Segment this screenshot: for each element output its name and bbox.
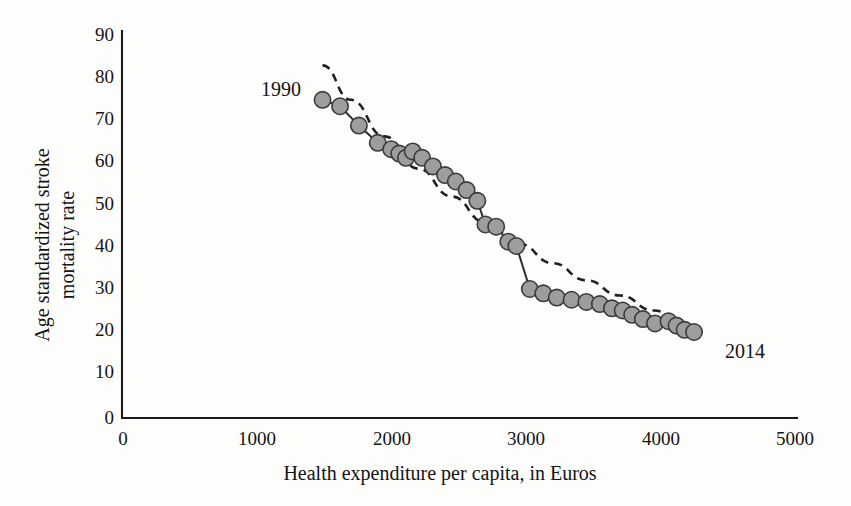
stroke-mortality-scatter-figure: 90 80 70 60 50 40 30 20 10 0 0 1000 2000…	[0, 0, 851, 506]
data-point	[314, 92, 330, 108]
y-tick-label-50: 50	[95, 193, 114, 214]
data-point	[351, 117, 367, 133]
axis-lines	[122, 31, 797, 418]
y-axis-title: Age standardized stroke mortality rate	[31, 148, 79, 341]
annotation-2014: 2014	[725, 340, 765, 362]
y-tick-label-60: 60	[95, 150, 114, 171]
data-point	[488, 218, 504, 234]
y-tick-label-20: 20	[95, 319, 114, 340]
trend-line-dashed	[323, 65, 685, 323]
y-axis-title-line1: Age standardized stroke	[31, 148, 54, 341]
x-axis-title: Health expenditure per capita, in Euros	[283, 462, 596, 485]
x-tick-label-1000: 1000	[238, 428, 276, 449]
chart-canvas: 90 80 70 60 50 40 30 20 10 0 0 1000 2000…	[0, 0, 851, 506]
data-point	[332, 98, 348, 114]
x-tick-label-5000: 5000	[776, 428, 814, 449]
x-tick-label-3000: 3000	[507, 428, 545, 449]
y-tick-label-30: 30	[95, 277, 114, 298]
x-tick-label-4000: 4000	[642, 428, 680, 449]
y-tick-label-90: 90	[95, 24, 114, 45]
data-point	[686, 324, 702, 340]
x-tick-label-0: 0	[118, 428, 128, 449]
y-axis-title-line2: mortality rate	[56, 191, 79, 299]
y-tick-label-0: 0	[105, 407, 115, 428]
y-tick-label-40: 40	[95, 235, 114, 256]
y-tick-label-10: 10	[95, 361, 114, 382]
data-point	[563, 292, 579, 308]
y-axis-tick-labels: 90 80 70 60 50 40 30 20 10 0	[95, 24, 114, 428]
y-tick-label-80: 80	[95, 66, 114, 87]
annotation-1990: 1990	[261, 78, 301, 100]
y-tick-label-70: 70	[95, 108, 114, 129]
x-axis-tick-labels: 0 1000 2000 3000 4000 5000	[118, 428, 814, 449]
data-point	[549, 289, 565, 305]
x-tick-label-2000: 2000	[373, 428, 411, 449]
data-point	[469, 193, 485, 209]
data-point	[508, 238, 524, 254]
